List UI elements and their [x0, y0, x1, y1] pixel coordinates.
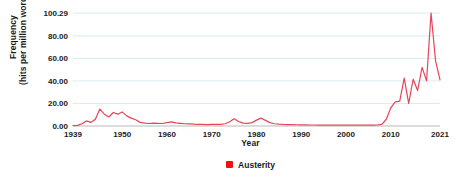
- frequency-line-chart: Frequency (hits per million words) 0.002…: [0, 0, 461, 178]
- plot-area: [0, 0, 461, 178]
- legend-square-marker: [226, 161, 233, 168]
- series-group: [73, 13, 440, 126]
- x-axis-title: Year: [0, 138, 461, 148]
- chart-legend: Austerity: [0, 155, 461, 173]
- series-line-austerity: [73, 13, 440, 126]
- gridline-group: [73, 13, 440, 126]
- x-axis-title-text: Year: [241, 138, 259, 148]
- legend-item-label: Austerity: [238, 160, 275, 170]
- legend-item-austerity[interactable]: Austerity: [226, 155, 275, 173]
